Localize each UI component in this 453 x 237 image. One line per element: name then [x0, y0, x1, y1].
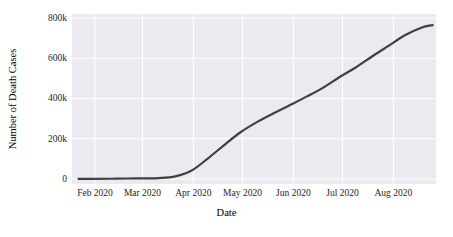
y-axis-tick-label: 800k [48, 13, 67, 23]
x-axis-tick-label: Apr 2020 [175, 188, 211, 199]
x-axis-tick-label: Jul 2020 [326, 188, 358, 199]
y-axis-tick-label: 0 [62, 174, 67, 184]
x-axis-tick-label: Feb 2020 [77, 188, 113, 199]
y-axis-tick-label: 200k [48, 134, 67, 144]
x-axis-tick-label: May 2020 [223, 188, 262, 199]
chart-figure: 0200k400k600k800k Feb 2020Mar 2020Apr 20… [0, 0, 453, 237]
death-cases-line-series [72, 14, 436, 184]
plot-area [72, 14, 436, 184]
x-axis-tick-label: Jun 2020 [276, 188, 311, 199]
x-axis-title: Date [0, 207, 453, 218]
y-axis-tick-label: 400k [48, 93, 67, 103]
y-axis-tick-label: 600k [48, 53, 67, 63]
x-axis-tick-label: Mar 2020 [124, 188, 161, 199]
x-axis-tick-label: Aug 2020 [374, 188, 412, 199]
y-axis-title: Number of Death Cases [7, 49, 18, 150]
